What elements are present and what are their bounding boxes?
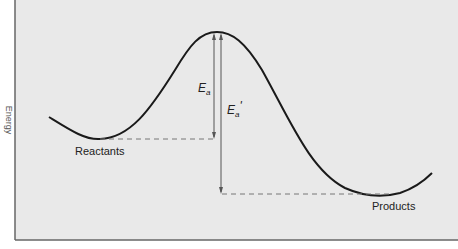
- energy-diagram: Energy Ea Ea' Reactants Products: [0, 0, 458, 249]
- products-label: Products: [372, 200, 416, 212]
- y-axis-label: Energy: [4, 106, 14, 135]
- reactants-label: Reactants: [75, 145, 125, 157]
